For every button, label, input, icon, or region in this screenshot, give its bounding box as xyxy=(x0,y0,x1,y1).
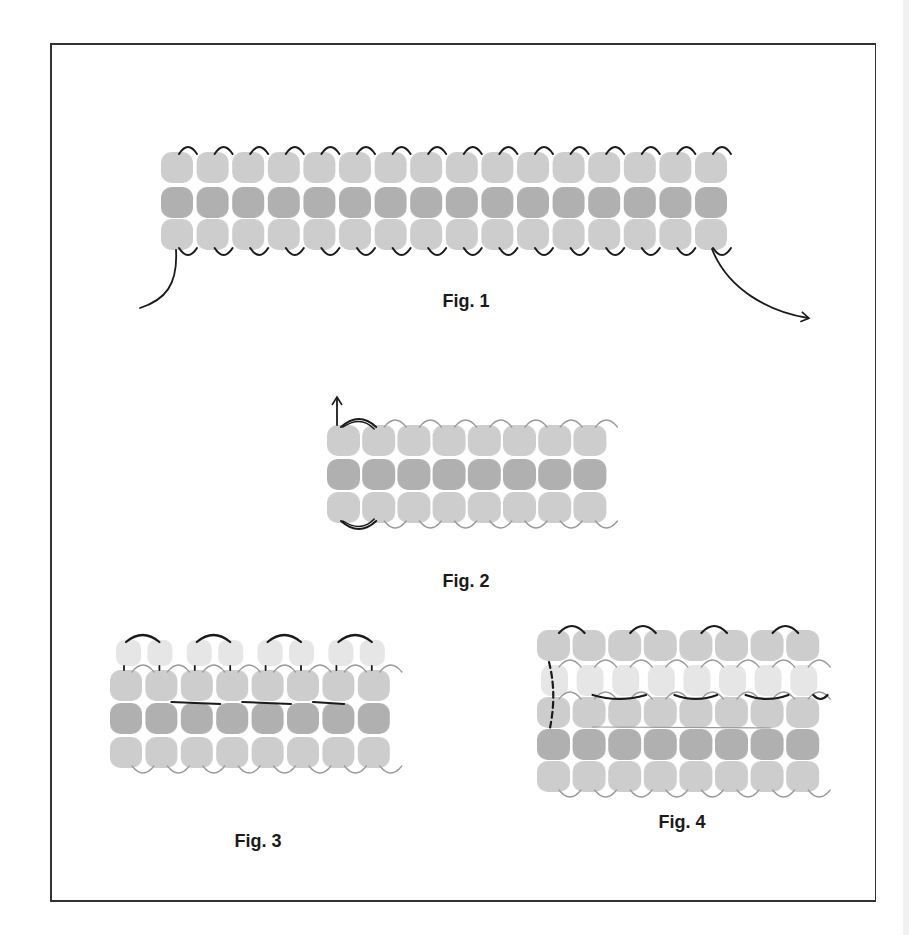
bead xyxy=(573,459,606,490)
fig-1-label: Fig. 1 xyxy=(442,291,489,312)
bead xyxy=(644,729,677,760)
bead xyxy=(362,459,395,490)
bead xyxy=(538,459,571,490)
bead xyxy=(410,152,442,183)
bead xyxy=(695,187,727,218)
bead xyxy=(790,665,817,696)
bead xyxy=(751,729,784,760)
bead xyxy=(755,665,782,696)
bead xyxy=(110,737,142,768)
bead xyxy=(481,187,513,218)
bead xyxy=(252,737,284,768)
bead xyxy=(397,425,430,456)
bead xyxy=(683,665,710,696)
bead xyxy=(608,761,641,792)
bead xyxy=(232,152,264,183)
bead xyxy=(553,152,585,183)
bead xyxy=(648,665,675,696)
bead-top-pair xyxy=(289,640,314,666)
bead xyxy=(375,187,407,218)
bead xyxy=(715,761,748,792)
bead xyxy=(517,219,549,250)
bead xyxy=(375,219,407,250)
bead xyxy=(181,703,213,734)
bead xyxy=(715,729,748,760)
bead xyxy=(433,492,466,523)
bead xyxy=(339,187,371,218)
bead-top-pair xyxy=(187,640,212,666)
bead xyxy=(573,761,606,792)
bead xyxy=(161,152,193,183)
bead xyxy=(679,729,712,760)
bead xyxy=(481,152,513,183)
bead xyxy=(145,737,177,768)
thread-bold-arc xyxy=(813,695,827,699)
bead xyxy=(624,187,656,218)
bead xyxy=(145,670,177,701)
bead xyxy=(715,697,748,728)
bead xyxy=(503,492,536,523)
bead xyxy=(410,219,442,250)
bead xyxy=(588,187,620,218)
fig3-group xyxy=(110,635,402,773)
bead xyxy=(679,761,712,792)
bead xyxy=(537,630,570,661)
bead xyxy=(252,703,284,734)
bead xyxy=(110,703,142,734)
bead xyxy=(468,459,501,490)
fig4-group xyxy=(537,626,830,797)
bead xyxy=(327,459,360,490)
bead xyxy=(287,670,319,701)
bead xyxy=(110,670,142,701)
bead-top-pair xyxy=(116,640,141,666)
beading-diagram xyxy=(0,0,909,935)
bead xyxy=(145,703,177,734)
bead xyxy=(358,737,390,768)
bead xyxy=(588,152,620,183)
bead xyxy=(573,425,606,456)
bead-top-pair xyxy=(147,640,172,666)
bead xyxy=(719,665,746,696)
bead xyxy=(612,665,639,696)
bead xyxy=(644,630,677,661)
bead xyxy=(216,703,248,734)
bead-top-pair xyxy=(218,640,243,666)
bead xyxy=(573,729,606,760)
bead-top-pair xyxy=(360,640,385,666)
bead xyxy=(446,152,478,183)
bead xyxy=(481,219,513,250)
bead xyxy=(538,425,571,456)
bead xyxy=(358,703,390,734)
bead xyxy=(397,492,430,523)
bead xyxy=(503,425,536,456)
bead xyxy=(751,761,784,792)
bead xyxy=(588,219,620,250)
thread-horizontal xyxy=(242,702,291,704)
bead xyxy=(573,630,606,661)
bead xyxy=(577,665,604,696)
thread-out-right xyxy=(712,249,808,318)
bead xyxy=(695,152,727,183)
bead xyxy=(624,219,656,250)
bead xyxy=(339,152,371,183)
bead xyxy=(644,761,677,792)
bead xyxy=(608,630,641,661)
thread-horizontal xyxy=(313,702,344,704)
bead xyxy=(339,219,371,250)
fig-2-label: Fig. 2 xyxy=(442,571,489,592)
bead xyxy=(608,729,641,760)
bead xyxy=(553,187,585,218)
bead xyxy=(303,152,335,183)
bead xyxy=(303,187,335,218)
bead xyxy=(695,219,727,250)
bead xyxy=(679,697,712,728)
bead xyxy=(786,761,819,792)
thread-in-left xyxy=(140,250,176,308)
bead xyxy=(303,219,335,250)
bead xyxy=(715,630,748,661)
bead xyxy=(538,492,571,523)
bead xyxy=(252,670,284,701)
bead xyxy=(624,152,656,183)
bead-top-pair xyxy=(328,640,353,666)
bead xyxy=(216,670,248,701)
